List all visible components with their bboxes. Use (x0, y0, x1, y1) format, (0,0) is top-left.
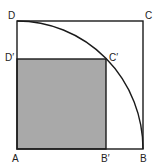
label-b-prime: B′ (101, 153, 110, 164)
label-d-prime: D′ (5, 52, 14, 63)
label-d: D (8, 10, 15, 21)
shaded-square-ab-c-d-prime (17, 59, 106, 149)
label-a: A (12, 153, 19, 164)
geometry-diagram: D C D′ C′ A B′ B (0, 0, 156, 167)
label-c-prime: C′ (109, 52, 118, 63)
label-b: B (140, 153, 147, 164)
label-c: C (145, 10, 152, 21)
